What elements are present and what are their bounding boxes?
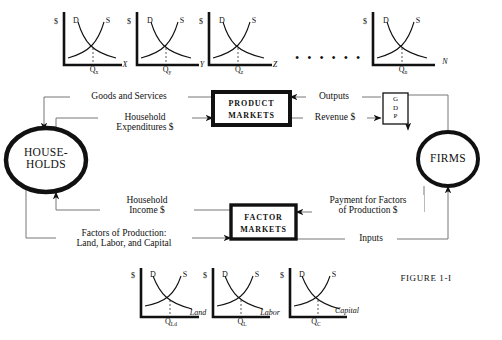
chart-y-demand-label: D — [144, 17, 156, 26]
chart-land-market-label: Land — [183, 309, 213, 318]
chart-x-demand-label: D — [70, 17, 82, 26]
chart-land-quantity-label: QLd — [158, 318, 184, 328]
chart-x-price-axis-label: $ — [50, 18, 62, 27]
gdp-label: GDP — [383, 95, 408, 121]
chart-capital-market-label: Capital — [328, 307, 366, 316]
chart-y-supply-label: S — [176, 17, 188, 26]
chart-capital-demand-label: D — [296, 271, 308, 280]
chart-capital-price-axis-label: $ — [276, 272, 288, 281]
chart-capital-supply-label: S — [328, 271, 340, 280]
flow-label-household-income: HouseholdIncome $ — [100, 195, 194, 216]
chart-z-market-label: Z — [267, 61, 283, 70]
chart-x-supply-label: S — [102, 17, 114, 26]
charts-ellipsis: • • • • • • — [295, 52, 361, 65]
chart-n-price-axis-label: $ — [359, 18, 371, 27]
chart-z-supply-label: S — [248, 17, 260, 26]
chart-x-quantity-label: Qx — [82, 66, 106, 76]
chart-land-supply-label: S — [179, 271, 191, 280]
figure-caption: FIGURE 1-I — [381, 274, 471, 284]
chart-n-demand-label: D — [380, 17, 392, 26]
chart-labor-market-label: Labor — [254, 309, 286, 318]
flow-label-revenue: Revenue $ — [303, 112, 367, 122]
firms-label: FIRMS — [418, 152, 478, 164]
flow-label-inputs: Inputs — [345, 233, 397, 243]
chart-labor-demand-label: D — [219, 271, 231, 280]
chart-n-market-label: N — [437, 58, 453, 67]
chart-capital-quantity-label: QC — [304, 318, 328, 328]
chart-labor-quantity-label: QL — [230, 318, 254, 328]
circular-flow-diagram: $ D S Qx X $ D S Qy Y $ D S Qz Z • • • •… — [0, 0, 502, 340]
chart-z-demand-label: D — [216, 17, 228, 26]
chart-n-supply-label: S — [412, 17, 424, 26]
factor-markets-label: FACTORMARKETS — [231, 212, 296, 235]
flow-label-household-expenditures: HouseholdExpenditures $ — [98, 112, 192, 133]
households-label: HOUSE-HOLDS — [6, 146, 86, 171]
chart-y-price-axis-label: $ — [123, 18, 135, 27]
flow-label-goods-and-services: Goods and Services — [70, 91, 188, 101]
chart-labor-price-axis-label: $ — [199, 272, 211, 281]
chart-z-quantity-label: Qz — [227, 66, 251, 76]
chart-land-demand-label: D — [147, 271, 159, 280]
product-markets-label: PRODUCTMARKETS — [213, 98, 290, 121]
chart-labor-supply-label: S — [251, 271, 263, 280]
flow-label-factors-of-production: Factors of Production:Land, Labor, and C… — [56, 228, 192, 249]
chart-z-price-axis-label: $ — [195, 18, 207, 27]
chart-y-quantity-label: Qy — [155, 66, 179, 76]
chart-x-market-label: X — [117, 61, 133, 70]
flow-label-payment-for-factors: Payment for Factorsof Production $ — [312, 195, 424, 216]
chart-land-price-axis-label: $ — [127, 272, 139, 281]
chart-y-market-label: Y — [194, 61, 210, 70]
flow-label-outputs: Outputs — [306, 91, 362, 101]
chart-n-quantity-label: Qn — [391, 66, 415, 76]
